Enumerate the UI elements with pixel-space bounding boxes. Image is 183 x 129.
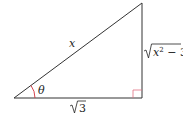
hypotenuse-label: x [69, 37, 76, 50]
right-angle-marker [133, 90, 142, 98]
svg-text:x2 − 3: x2 − 3 [153, 46, 183, 59]
adjacent-label: 3 [70, 101, 86, 115]
triangle-diagram: θ x 3 x2 − 3 [0, 0, 183, 129]
svg-text:3: 3 [79, 102, 86, 115]
hypotenuse [14, 3, 142, 98]
opposite-label: x2 − 3 [144, 44, 183, 59]
angle-arc [31, 86, 35, 99]
angle-label: θ [38, 84, 45, 97]
